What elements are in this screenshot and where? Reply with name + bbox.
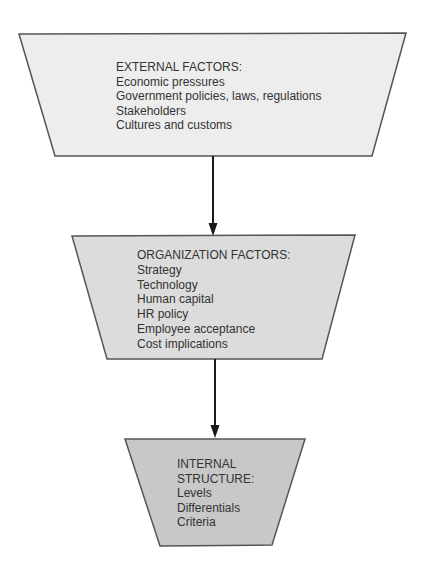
external-factor-item: Cultures and customs xyxy=(116,118,321,133)
organization-factor-item: Strategy xyxy=(137,263,291,278)
organization-factor-item: Employee acceptance xyxy=(137,322,291,337)
organization-factor-item: Human capital xyxy=(137,292,291,307)
internal-structure-item: Differentials xyxy=(177,501,254,516)
external-factors-box: EXTERNAL FACTORS: Economic pressures Gov… xyxy=(116,60,321,133)
arrow-external-to-organization xyxy=(209,156,218,236)
internal-structure-item: Levels xyxy=(177,486,254,501)
external-factor-item: Government policies, laws, regulations xyxy=(116,89,321,104)
external-factor-item: Economic pressures xyxy=(116,75,321,90)
organization-factor-item: Technology xyxy=(137,278,291,293)
internal-structure-title-line: INTERNAL xyxy=(177,457,254,472)
organization-factor-item: HR policy xyxy=(137,307,291,322)
arrow-organization-to-internal xyxy=(211,359,220,438)
arrowhead-icon xyxy=(209,223,218,236)
internal-structure-item: Criteria xyxy=(177,515,254,530)
internal-structure-box: INTERNAL STRUCTURE: Levels Differentials… xyxy=(177,457,254,530)
organization-factors-title: ORGANIZATION FACTORS: xyxy=(137,248,291,263)
organization-factors-box: ORGANIZATION FACTORS: Strategy Technolog… xyxy=(137,248,291,352)
internal-structure-title-line: STRUCTURE: xyxy=(177,472,254,487)
external-factor-item: Stakeholders xyxy=(116,104,321,119)
organization-factor-item: Cost implications xyxy=(137,337,291,352)
arrowhead-icon xyxy=(211,425,220,438)
external-factors-title: EXTERNAL FACTORS: xyxy=(116,60,321,75)
